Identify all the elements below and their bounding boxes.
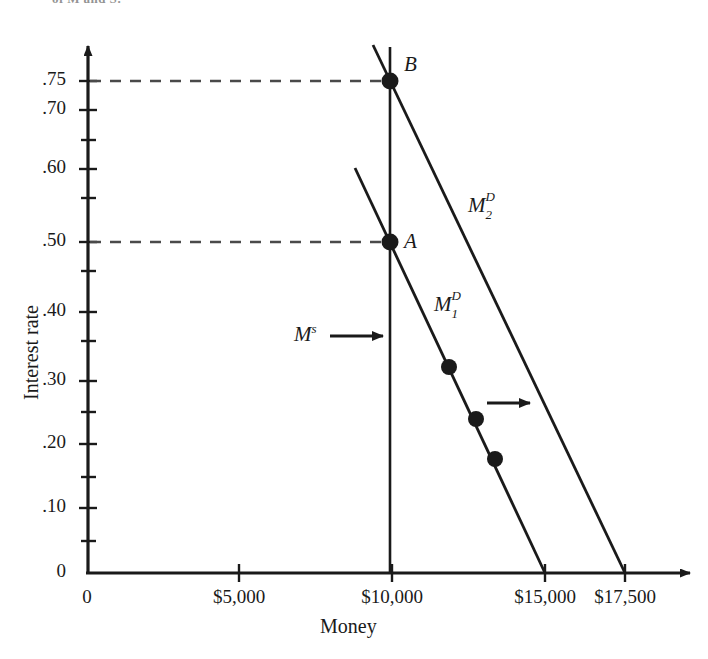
dashed-guides bbox=[90, 81, 388, 242]
point-a-label: A bbox=[404, 229, 417, 254]
point-marker-3 bbox=[487, 451, 503, 467]
money-demand-curve-2 bbox=[373, 45, 625, 573]
m2-superscript: D bbox=[486, 190, 495, 204]
y-tick-label-010: .10 bbox=[14, 495, 66, 517]
data-point-markers bbox=[382, 73, 504, 468]
m1-base: M bbox=[434, 292, 452, 316]
y-tick-label-020: .20 bbox=[14, 431, 66, 453]
y-tick-label-0: 0 bbox=[14, 560, 66, 582]
m2-base: M bbox=[468, 193, 486, 217]
x-tick-label-5000: $5,000 bbox=[186, 586, 292, 608]
y-tick-label-060: .60 bbox=[14, 156, 66, 178]
money-demand-1-label: MD1 bbox=[434, 292, 461, 321]
money-demand-2-label: MD2 bbox=[468, 193, 495, 222]
x-tick-label-10000: $10,000 bbox=[331, 586, 453, 608]
x-axis-title: Money bbox=[320, 615, 377, 638]
ms-base: M bbox=[294, 322, 312, 346]
point-marker-2 bbox=[468, 411, 484, 427]
m1-superscript: D bbox=[452, 289, 461, 303]
point-b-marker bbox=[382, 73, 399, 90]
money-supply-label: Ms bbox=[294, 322, 317, 347]
money-market-figure: of M and S: bbox=[0, 0, 708, 659]
y-axis-title: Interest rate bbox=[20, 305, 43, 400]
x-tick-label-17500: $17,500 bbox=[564, 586, 686, 608]
point-marker-1 bbox=[441, 359, 457, 375]
m1-subscript: 1 bbox=[452, 307, 461, 321]
ms-superscript: s bbox=[312, 321, 317, 336]
y-tick-label-075: .75 bbox=[14, 68, 66, 90]
m2-subscript: 2 bbox=[486, 208, 495, 222]
y-tick-label-070: .70 bbox=[14, 97, 66, 119]
y-tick-label-050: .50 bbox=[14, 229, 66, 251]
x-tick-label-0: 0 bbox=[72, 586, 102, 608]
chart-canvas bbox=[0, 0, 708, 659]
point-b-label: B bbox=[404, 52, 417, 77]
point-a-marker bbox=[382, 234, 399, 251]
